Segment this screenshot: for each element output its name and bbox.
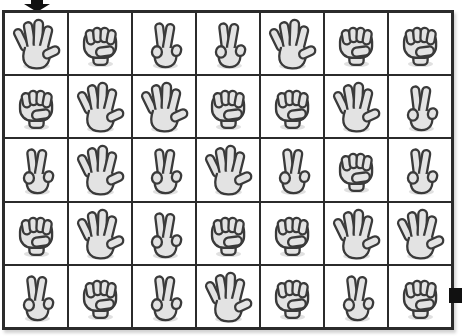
rock-hand-icon — [328, 15, 385, 72]
grid-cell-rock — [68, 265, 132, 328]
grid-cell-scissors — [324, 265, 388, 328]
rock-hand-icon — [8, 78, 65, 135]
end-marker-square — [449, 288, 462, 303]
grid-cell-paper — [68, 75, 132, 138]
scissors-hand-icon — [136, 268, 193, 325]
rock-hand-icon — [264, 268, 321, 325]
paper-hand-icon — [264, 15, 321, 72]
grid-cell-rock — [4, 202, 68, 265]
grid-cell-scissors — [132, 12, 196, 75]
grid-cell-scissors — [196, 12, 260, 75]
worksheet-page — [0, 0, 462, 336]
scissors-hand-icon — [136, 205, 193, 262]
grid-cell-paper — [68, 202, 132, 265]
grid-cell-scissors — [260, 138, 324, 201]
rock-hand-icon — [200, 78, 257, 135]
grid-cell-rock — [324, 12, 388, 75]
grid-cell-paper — [68, 138, 132, 201]
grid-cell-scissors — [132, 138, 196, 201]
scissors-hand-icon — [200, 15, 257, 72]
grid-cell-scissors — [388, 138, 452, 201]
paper-hand-icon — [72, 141, 129, 198]
hand-grid — [2, 10, 454, 330]
paper-hand-icon — [200, 141, 257, 198]
grid-cell-rock — [196, 75, 260, 138]
scissors-hand-icon — [328, 268, 385, 325]
rock-hand-icon — [8, 205, 65, 262]
rock-hand-icon — [328, 141, 385, 198]
paper-hand-icon — [392, 205, 449, 262]
grid-cell-paper — [196, 138, 260, 201]
grid-cell-paper — [4, 12, 68, 75]
rock-hand-icon — [72, 268, 129, 325]
scissors-hand-icon — [136, 141, 193, 198]
grid-cell-paper — [196, 265, 260, 328]
grid-cell-scissors — [132, 202, 196, 265]
grid-cell-rock — [388, 265, 452, 328]
grid-cell-rock — [260, 265, 324, 328]
scissors-hand-icon — [136, 15, 193, 72]
grid-cell-scissors — [4, 265, 68, 328]
rock-hand-icon — [392, 268, 449, 325]
paper-hand-icon — [72, 205, 129, 262]
grid-cell-paper — [260, 12, 324, 75]
rock-hand-icon — [72, 15, 129, 72]
rock-hand-icon — [264, 205, 321, 262]
rock-hand-icon — [392, 15, 449, 72]
grid-cell-rock — [260, 202, 324, 265]
grid-cell-rock — [260, 75, 324, 138]
rock-hand-icon — [200, 205, 257, 262]
grid-cell-rock — [324, 138, 388, 201]
scissors-hand-icon — [8, 141, 65, 198]
paper-hand-icon — [328, 205, 385, 262]
grid-cell-rock — [4, 75, 68, 138]
scissors-hand-icon — [392, 141, 449, 198]
paper-hand-icon — [200, 268, 257, 325]
grid-cell-paper — [388, 202, 452, 265]
grid-cell-scissors — [388, 75, 452, 138]
grid-cell-rock — [196, 202, 260, 265]
scissors-hand-icon — [264, 141, 321, 198]
scissors-hand-icon — [392, 78, 449, 135]
grid-cell-rock — [68, 12, 132, 75]
grid-cell-paper — [324, 75, 388, 138]
paper-hand-icon — [8, 15, 65, 72]
rock-hand-icon — [264, 78, 321, 135]
grid-cell-paper — [132, 75, 196, 138]
grid-cell-scissors — [132, 265, 196, 328]
grid-cell-paper — [324, 202, 388, 265]
grid-cell-scissors — [4, 138, 68, 201]
paper-hand-icon — [328, 78, 385, 135]
paper-hand-icon — [72, 78, 129, 135]
paper-hand-icon — [136, 78, 193, 135]
scissors-hand-icon — [8, 268, 65, 325]
grid-cell-rock — [388, 12, 452, 75]
